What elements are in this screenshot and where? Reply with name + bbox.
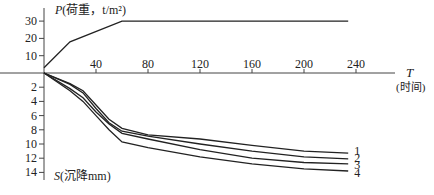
s-tick-label: 12 xyxy=(25,152,37,164)
x-tick-label: 40 xyxy=(90,58,102,70)
settlement-line-3 xyxy=(44,73,348,164)
settlement-line-2 xyxy=(44,73,348,159)
t-axis-label: T xyxy=(406,66,413,79)
s-tick-label: 8 xyxy=(31,124,37,136)
s-axis-text: (沉降mm) xyxy=(60,169,111,183)
p-tick-label: 30 xyxy=(25,15,37,27)
t-axis-sublabel: (时间) xyxy=(396,82,425,93)
s-tick-label: 4 xyxy=(31,95,37,107)
settlement-curves xyxy=(44,73,348,171)
p-axis-label: P(荷重，t/m²) xyxy=(55,4,126,16)
s-tick-label: 2 xyxy=(31,81,37,93)
s-axis-label: S(沉降mm) xyxy=(54,170,111,182)
x-tick-label: 120 xyxy=(191,58,209,70)
series-label-4: 4 xyxy=(354,167,360,179)
x-tick-label: 160 xyxy=(243,58,261,70)
x-tick-label: 240 xyxy=(347,58,365,70)
x-tick-label: 200 xyxy=(295,58,313,70)
settlement-load-chart xyxy=(0,0,434,195)
p-tick-label: 10 xyxy=(25,50,37,62)
x-tick-label: 80 xyxy=(142,58,154,70)
s-tick-label: 14 xyxy=(25,166,37,178)
axes xyxy=(0,8,395,180)
p-tick-label: 20 xyxy=(25,32,37,44)
s-tick-label: 6 xyxy=(31,110,37,122)
s-tick-label: 10 xyxy=(25,138,37,150)
settlement-line-1 xyxy=(44,73,348,153)
p-axis-text: (荷重，t/m²) xyxy=(62,3,126,17)
